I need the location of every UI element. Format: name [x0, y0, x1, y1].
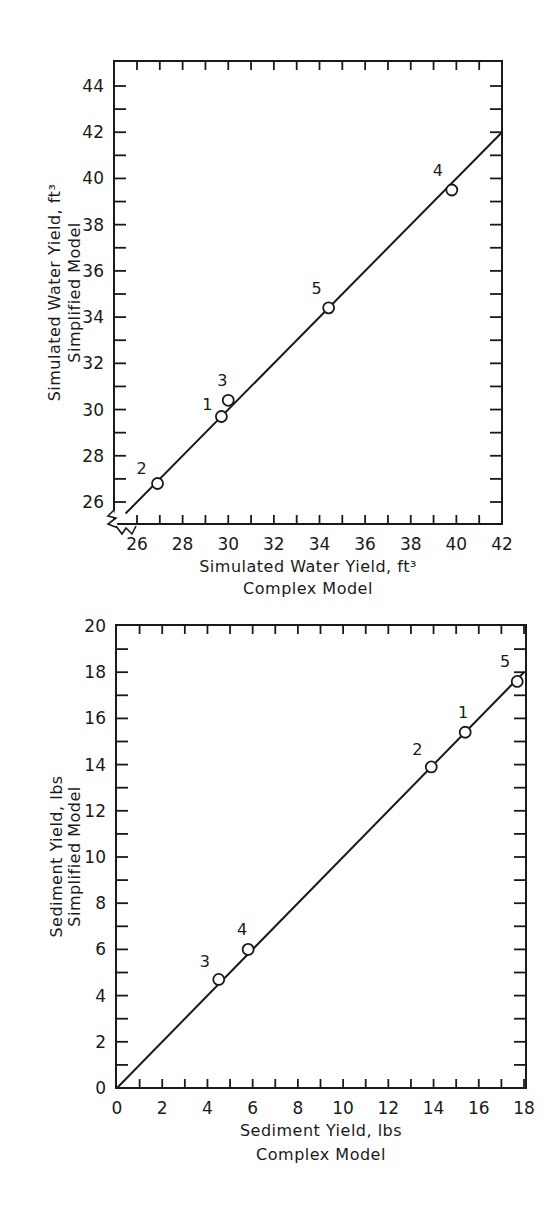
y-tick-label: 44 — [82, 76, 104, 96]
y-tick-label: 32 — [82, 353, 104, 373]
x-tick-label: 0 — [112, 1098, 123, 1118]
data-point-label: 1 — [202, 395, 212, 414]
x-tick-label: 42 — [491, 534, 513, 554]
data-point-label: 5 — [312, 279, 322, 298]
y-tick-label: 14 — [84, 755, 106, 775]
y-tick-label: 8 — [95, 893, 106, 913]
y-tick-label: 42 — [82, 122, 104, 142]
x-tick-label: 34 — [309, 534, 331, 554]
x-tick-label: 10 — [332, 1098, 354, 1118]
data-point-marker — [426, 761, 437, 772]
y-tick-label: 18 — [84, 662, 106, 682]
x-tick-label: 6 — [247, 1098, 258, 1118]
y-axis-sublabel: Simplified Model — [65, 786, 84, 926]
data-point-marker — [152, 478, 163, 489]
y-tick-label: 20 — [84, 616, 106, 636]
x-axis-label: Sediment Yield, lbs — [240, 1121, 402, 1140]
x-tick-label: 32 — [263, 534, 285, 554]
x-tick-label: 28 — [172, 534, 194, 554]
water-yield-chart: 2628303234363840422628303234363840424412… — [45, 61, 513, 598]
x-tick-label: 36 — [354, 534, 376, 554]
x-tick-label: 18 — [513, 1098, 535, 1118]
y-axis-sublabel: Simplified Model — [65, 222, 84, 362]
data-point-marker — [243, 944, 254, 955]
data-point-label: 4 — [433, 161, 443, 180]
x-tick-label: 30 — [217, 534, 239, 554]
x-tick-label: 16 — [468, 1098, 490, 1118]
y-tick-label: 30 — [82, 400, 104, 420]
y-tick-label: 34 — [82, 307, 104, 327]
y-tick-label: 12 — [84, 801, 106, 821]
x-tick-label: 4 — [202, 1098, 213, 1118]
data-point-label: 2 — [136, 459, 146, 478]
data-point-label: 3 — [200, 952, 210, 971]
y-tick-label: 16 — [84, 708, 106, 728]
y-tick-label: 2 — [95, 1032, 106, 1052]
y-tick-label: 36 — [82, 261, 104, 281]
data-point-marker — [323, 302, 334, 313]
x-axis-sublabel: Complex Model — [256, 1145, 386, 1164]
y-tick-label: 40 — [82, 168, 104, 188]
x-tick-label: 38 — [400, 534, 422, 554]
y-tick-label: 6 — [95, 939, 106, 959]
data-point-marker — [446, 185, 457, 196]
x-tick-label: 8 — [292, 1098, 303, 1118]
y-tick-label: 4 — [95, 986, 106, 1006]
plot-frame — [116, 625, 526, 1088]
x-tick-label: 26 — [126, 534, 148, 554]
data-point-label: 3 — [217, 371, 227, 390]
y-axis-label: Sediment Yield, lbs — [47, 775, 66, 937]
x-tick-label: 2 — [157, 1098, 168, 1118]
y-tick-label: 26 — [82, 492, 104, 512]
x-axis-label: Simulated Water Yield, ft³ — [199, 557, 417, 576]
x-tick-label: 12 — [378, 1098, 400, 1118]
y-tick-label: 10 — [84, 847, 106, 867]
data-point-marker — [213, 974, 224, 985]
data-point-label: 5 — [500, 652, 510, 671]
figure: 2628303234363840422628303234363840424412… — [0, 0, 558, 1230]
y-tick-label: 38 — [82, 215, 104, 235]
x-axis-sublabel: Complex Model — [243, 579, 373, 598]
data-point-label: 1 — [458, 703, 468, 722]
x-tick-label: 40 — [446, 534, 468, 554]
y-axis-label: Simulated Water Yield, ft³ — [45, 184, 64, 402]
axis-break-icon — [108, 510, 136, 534]
plot-frame — [114, 61, 502, 524]
data-point-marker — [512, 676, 523, 687]
data-point-label: 2 — [412, 740, 422, 759]
y-tick-label: 28 — [82, 446, 104, 466]
data-point-marker — [216, 411, 227, 422]
data-point-marker — [223, 395, 234, 406]
sediment-yield-chart: 0246810121416180246810121416182012345Sed… — [47, 616, 535, 1164]
y-tick-label: 0 — [95, 1078, 106, 1098]
data-point-marker — [460, 727, 471, 738]
x-tick-label: 14 — [423, 1098, 445, 1118]
data-point-label: 4 — [237, 920, 247, 939]
